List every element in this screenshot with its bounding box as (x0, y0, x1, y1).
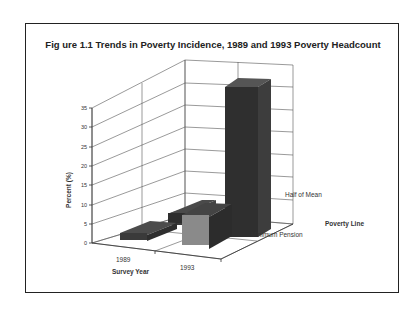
svg-text:20: 20 (81, 163, 87, 169)
x-tick-1989: 1989 (116, 256, 131, 263)
x-axis-label: Survey Year (112, 268, 150, 276)
svg-text:25: 25 (81, 144, 87, 150)
svg-text:35: 35 (81, 105, 87, 111)
svg-text:10: 10 (81, 202, 87, 208)
svg-text:5: 5 (84, 221, 87, 227)
z-axis-label: Poverty Line (325, 220, 364, 228)
chart-plot: 0 5 10 15 20 25 30 35 Percent (%) 1989 1… (0, 0, 420, 312)
y-axis-label: Percent (%) (65, 172, 73, 208)
x-tick-1993: 1993 (180, 264, 195, 271)
z-tick-half-of-mean: Half of Mean (285, 191, 322, 198)
svg-text:15: 15 (81, 182, 87, 188)
y-axis (89, 108, 92, 243)
bar-1989-minimum-pension (120, 221, 177, 241)
z-tick-minimum-pension: Minimum Pension (251, 231, 303, 238)
y-tick-labels: 0 5 10 15 20 25 30 35 (81, 105, 87, 246)
svg-text:30: 30 (81, 124, 87, 130)
svg-text:0: 0 (84, 240, 87, 246)
